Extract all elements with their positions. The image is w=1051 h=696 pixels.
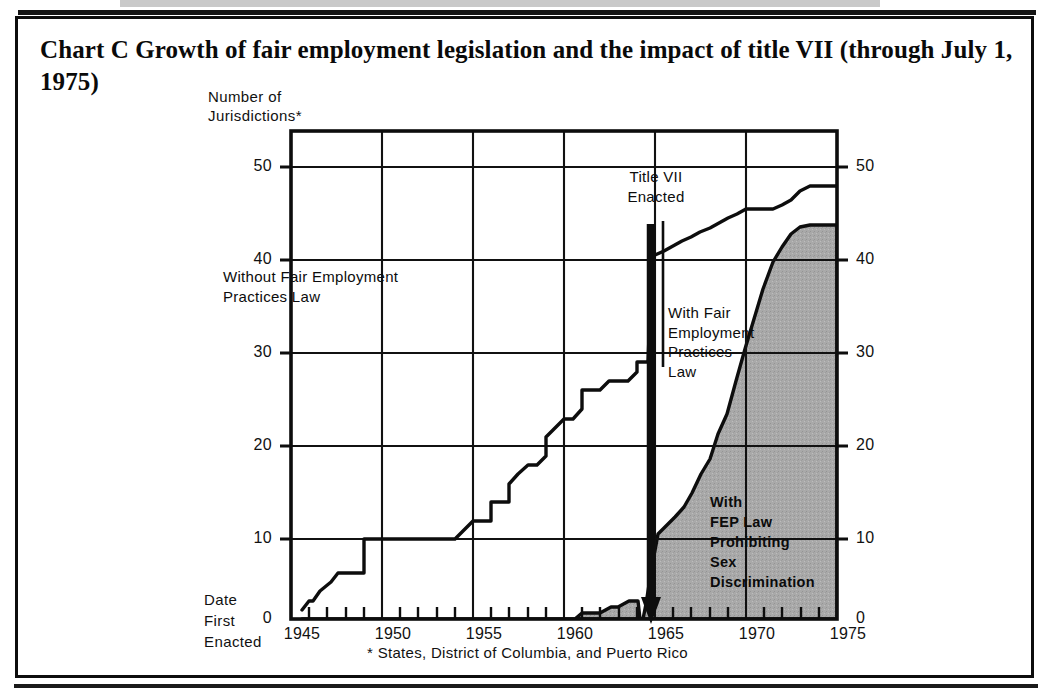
y-tick-right-40: 40 (856, 250, 896, 268)
page-rule-bottom (14, 684, 1038, 688)
y-tick-right-30: 30 (856, 343, 896, 361)
chart-footnote: * States, District of Columbia, and Puer… (18, 644, 1037, 661)
y-tick-left-50: 50 (236, 157, 272, 175)
y-tick-right-50: 50 (856, 157, 896, 175)
annotation-fep-sex-discrimination: With FEP Law Prohibiting Sex Discriminat… (710, 492, 815, 592)
y-tick-right-20: 20 (856, 436, 896, 454)
annotation-without-fep-law: Without Fair Employment Practices Law (223, 267, 398, 306)
y-tick-left-40: 40 (236, 250, 272, 268)
x-tick-1945: 1945 (272, 625, 332, 643)
y-tick-left-0: 0 (236, 609, 272, 627)
y-tick-left-10: 10 (236, 529, 272, 547)
page-rule-top (18, 10, 1036, 15)
annotation-with-fep-law: With Fair Employment Practices Law (668, 303, 754, 381)
chart-frame: Chart C Growth of fair employment legisl… (15, 16, 1034, 678)
annotation-title-vii-enacted: Title VII Enacted (606, 167, 706, 206)
y-tick-right-10: 10 (856, 529, 896, 547)
x-tick-1965: 1965 (636, 625, 696, 643)
chart-canvas: Number ofJurisdictions* DateFirstEnacted (18, 19, 1037, 681)
x-tick-1975: 1975 (818, 625, 878, 643)
x-tick-1950: 1950 (363, 625, 423, 643)
x-tick-1970: 1970 (727, 625, 787, 643)
x-tick-1955: 1955 (454, 625, 514, 643)
x-tick-1960: 1960 (545, 625, 605, 643)
scan-artifact-top (120, 0, 880, 7)
y-tick-left-30: 30 (236, 343, 272, 361)
y-tick-left-20: 20 (236, 436, 272, 454)
